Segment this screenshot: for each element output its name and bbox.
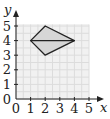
- y-tick-label: 4: [3, 33, 11, 48]
- x-tick-label: 3: [56, 101, 64, 116]
- y-tick-label: 0: [3, 92, 11, 107]
- y-tick-label: 3: [3, 48, 11, 63]
- y-tick-label: 5: [3, 19, 11, 34]
- y-axis-arrow-icon: [13, 10, 19, 17]
- x-tick-label: 1: [26, 101, 34, 116]
- y-tick-labels: 012345: [3, 19, 11, 107]
- y-tick-label: 1: [3, 77, 11, 92]
- coordinate-diagram: x y 012345 012345: [0, 0, 110, 119]
- y-axis-label: y: [3, 2, 12, 17]
- x-tick-labels: 012345: [12, 101, 93, 116]
- x-tick-label: 2: [41, 101, 49, 116]
- x-tick-label: 0: [12, 101, 20, 116]
- coordinate-grid-svg: x y 012345 012345: [0, 0, 110, 119]
- x-tick-label: 5: [85, 101, 93, 116]
- x-tick-label: 4: [70, 101, 78, 116]
- y-tick-label: 2: [3, 62, 11, 77]
- x-axis-label: x: [100, 100, 108, 115]
